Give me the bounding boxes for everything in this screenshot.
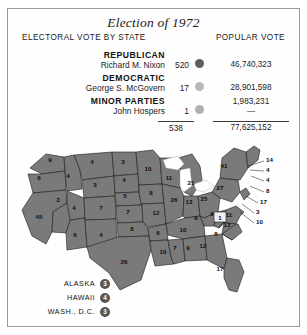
leader-votes-4: 17: [260, 198, 267, 205]
state-votes-or: 6: [37, 174, 41, 181]
popular-total-rule: [213, 121, 289, 122]
state-votes-tx: 26: [121, 258, 128, 265]
electoral-votes-republican: 520: [171, 60, 189, 70]
democratic-dot: [195, 82, 204, 91]
state-votes-nc: 13: [224, 221, 231, 228]
state-votes-mt: 4: [90, 158, 94, 165]
state-wy: [82, 176, 115, 198]
state-votes-wy: 3: [93, 181, 97, 188]
leader-vote-labels: 1444817310: [256, 156, 273, 225]
inset-label-hawaii: HAWAII: [17, 293, 95, 302]
party-name-democratic: DEMOCRATIC: [15, 73, 165, 83]
popular-votes-republican: 46,740,323: [213, 60, 289, 69]
popular-votes-minor-dash: —: [213, 107, 289, 116]
state-votes-ia: 8: [149, 189, 153, 196]
state-votes-nv: 3: [56, 196, 60, 203]
column-headers: ELECTORAL VOTE BY STATE POPULAR VOTE: [14, 33, 297, 45]
electoral-total-rule: [158, 121, 194, 122]
state-votes-sc: 8: [214, 230, 218, 237]
state-votes-nd: 3: [121, 158, 125, 165]
leader-votes-0: 14: [266, 156, 273, 163]
state-votes-la: 10: [160, 248, 167, 255]
party-name-republican: REPUBLICAN: [15, 50, 165, 60]
state-votes-ca: 45: [36, 213, 43, 220]
state-votes-wa: 9: [48, 156, 52, 163]
inset-row-washington-dc: WASH., D.C. 3: [17, 305, 137, 319]
state-votes-fl: 17: [217, 265, 224, 272]
leader-votes-2: 4: [266, 176, 270, 183]
state-votes-ne: 5: [123, 192, 127, 199]
inset-row-hawaii: HAWAII 4: [17, 291, 137, 305]
state-votes-id: 4: [66, 172, 70, 179]
candidate-name-republican: Richard M. Nixon: [15, 60, 165, 70]
totals-row: 538 77,625,152: [8, 121, 293, 141]
leader-votes-6: 10: [256, 218, 263, 225]
popular-total-value: 77,625,152: [213, 123, 289, 132]
state-votes-ms: 7: [173, 244, 177, 251]
leader-votes-3: 8: [266, 187, 270, 194]
state-votes-mo: 12: [153, 209, 160, 216]
state-votes-sd: 4: [122, 176, 126, 183]
state-ne: [115, 192, 142, 206]
state-votes-az: 6: [73, 231, 77, 238]
leader-votes-1: 4: [266, 166, 270, 173]
inset-votes-alaska: 3: [100, 279, 110, 289]
inset-label-alaska: ALASKA: [17, 279, 95, 288]
state-votes-oh: 25: [201, 195, 208, 202]
state-votes-ga: 12: [200, 242, 207, 249]
inset-votes-hawaii: 4: [100, 293, 110, 303]
state-votes-in: 13: [186, 198, 193, 205]
state-il: [162, 184, 184, 224]
state-nd: [112, 152, 138, 176]
minor-parties-dot: [195, 105, 204, 114]
results-legend: REPUBLICAN Richard M. Nixon 520 46,740,3…: [8, 50, 293, 122]
state-votes-ks: 7: [126, 208, 130, 215]
state-votes-wi: 11: [166, 174, 173, 181]
state-votes-ok: 8: [130, 225, 134, 232]
candidate-name-democratic: George S. McGovern: [15, 83, 165, 93]
inset-states: ALASKA 3 HAWAII 4 WASH., D.C. 3: [17, 277, 137, 321]
state-votes-tn: 10: [180, 226, 187, 233]
legend-row-minor-parties: MINOR PARTIES John Hospers 1 1,983,231 —: [8, 96, 293, 122]
state-votes-ut: 4: [72, 204, 76, 211]
popular-votes-democratic: 28,901,598: [213, 83, 289, 92]
state-votes-ky: 9: [194, 214, 198, 221]
state-votes-il: 26: [171, 196, 178, 203]
inset-label-washington-dc: WASH., D.C.: [17, 307, 95, 316]
popular-votes-minor: 1,983,231: [213, 97, 289, 106]
page-title: Election of 1972: [0, 15, 307, 31]
state-votes-mi: 21: [188, 179, 195, 186]
state-votes-nm: 4: [99, 231, 103, 238]
state-votes-ar: 6: [156, 229, 160, 236]
state-votes-wv: 6: [210, 210, 214, 217]
popular-column-header: POPULAR VOTE: [216, 33, 285, 42]
state-votes-mn: 10: [145, 165, 152, 172]
state-sd: [114, 174, 139, 193]
leader-votes-5: 3: [256, 208, 260, 215]
electoral-votes-democratic: 17: [171, 83, 189, 93]
electoral-total-value: 538: [158, 123, 194, 133]
state-votes-ny: 41: [221, 162, 228, 169]
state-ut: [67, 191, 85, 220]
republican-dot: [195, 59, 204, 68]
candidate-name-minor: John Hospers: [15, 106, 165, 116]
faithless-elector-label: 1: [218, 214, 222, 221]
legend-row-democratic: DEMOCRATIC George S. McGovern 17 28,901,…: [8, 73, 293, 96]
legend-row-republican: REPUBLICAN Richard M. Nixon 520 46,740,3…: [8, 50, 293, 73]
state-or: [28, 171, 66, 193]
election-map-infographic: Election of 1972 ELECTORAL VOTE BY STATE…: [0, 0, 307, 335]
state-votes-pa: 27: [217, 184, 224, 191]
party-name-minor: MINOR PARTIES: [15, 96, 165, 106]
inset-row-alaska: ALASKA 3: [17, 277, 137, 291]
state-fl: [224, 258, 244, 292]
state-votes-va: 11: [226, 211, 233, 218]
electoral-column-header: ELECTORAL VOTE BY STATE: [22, 33, 146, 42]
electoral-votes-minor: 1: [171, 106, 189, 116]
state-ne-corner: [246, 146, 260, 168]
state-votes-co: 7: [99, 204, 103, 211]
state-ga: [205, 234, 227, 269]
state-votes-al: 9: [186, 244, 190, 251]
inset-votes-washington-dc: 3: [100, 307, 110, 317]
state-nj: [240, 188, 250, 200]
